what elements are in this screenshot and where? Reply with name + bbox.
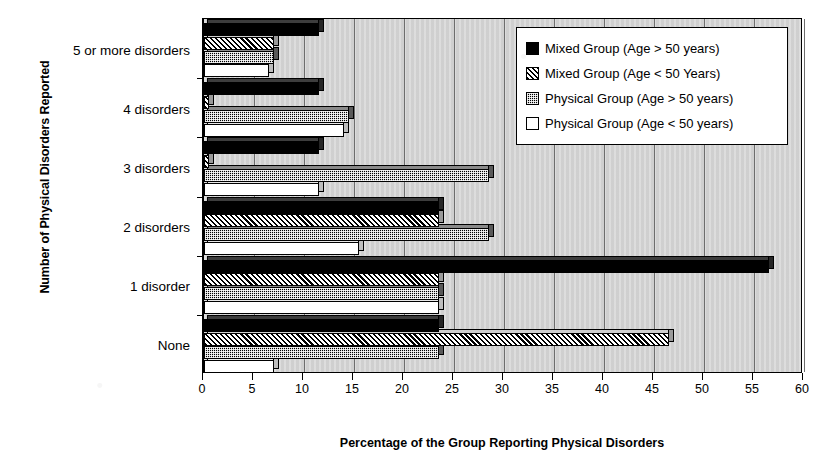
x-tick [702,373,703,380]
bar [204,64,269,77]
y-tick [197,315,204,316]
bar [204,141,319,154]
bar [204,214,439,227]
bar-chart: Number of Physical Disorders Reported 5 … [0,0,831,470]
category-label: 3 disorders [20,160,190,175]
x-tick-label: 30 [495,382,509,396]
bar [204,23,319,36]
bar [204,242,359,255]
x-tick [302,373,303,380]
bar [204,124,344,137]
x-axis-title: Percentage of the Group Reporting Physic… [202,436,802,450]
x-tick [352,373,353,380]
legend-label: Mixed Group (Age < 50 Years) [545,66,720,81]
legend-item: Physical Group (Age > 50 years) [526,86,779,111]
x-tick [802,373,803,380]
x-tick [402,373,403,380]
x-tick [502,373,503,380]
x-tick-label: 50 [695,382,709,396]
x-tick-label: 55 [745,382,759,396]
bar [204,96,209,109]
bar [204,273,439,286]
x-tick-label: 45 [645,382,659,396]
x-tick-label: 10 [295,382,309,396]
bar [204,82,319,95]
y-tick [197,197,204,198]
gridline [804,19,805,372]
x-tick-label: 60 [795,382,809,396]
bar [204,360,274,373]
category-label: None [20,338,190,353]
x-tick [452,373,453,380]
x-tick [602,373,603,380]
y-tick [197,137,204,138]
category-label: 4 disorders [20,101,190,116]
legend-label: Physical Group (Age < 50 years) [545,116,733,131]
x-tick [752,373,753,380]
y-tick [197,78,204,79]
legend-swatch-icon [526,42,539,55]
bar [204,183,319,196]
x-tick-label: 20 [395,382,409,396]
gridline [504,19,505,372]
x-tick-label: 15 [345,382,359,396]
legend-label: Physical Group (Age > 50 years) [545,91,733,106]
x-tick-label: 35 [545,382,559,396]
bar [204,169,489,182]
x-tick [202,373,203,380]
legend-item: Physical Group (Age < 50 years) [526,111,779,136]
x-tick-label: 25 [445,382,459,396]
legend-item: Mixed Group (Age > 50 years) [526,36,779,61]
bar [204,51,274,64]
bar [204,110,349,123]
x-tick [652,373,653,380]
bar [204,260,769,273]
x-axis: 051015202530354045505560 [202,373,802,374]
bar [204,333,669,346]
legend-swatch-icon [526,67,539,80]
bar [204,201,439,214]
bar [204,37,274,50]
gridline [454,19,455,372]
bar [204,301,439,314]
bar [204,287,439,300]
legend-swatch-icon [526,117,539,130]
x-tick-label: 0 [199,382,206,396]
x-tick-label: 5 [249,382,256,396]
y-tick [197,256,204,257]
x-tick [252,373,253,380]
category-label: 1 disorder [20,279,190,294]
category-label: 2 disorders [20,220,190,235]
bar [204,155,209,168]
bar [204,228,489,241]
x-tick [552,373,553,380]
x-tick-label: 40 [595,382,609,396]
bar [204,319,439,332]
category-axis-labels: 5 or more disorders4 disorders3 disorder… [30,18,196,373]
category-label: 5 or more disorders [20,42,190,57]
legend-item: Mixed Group (Age < 50 Years) [526,61,779,86]
legend-label: Mixed Group (Age > 50 years) [545,41,720,56]
legend: Mixed Group (Age > 50 years)Mixed Group … [516,27,788,145]
bar [204,346,439,359]
legend-swatch-icon [526,92,539,105]
